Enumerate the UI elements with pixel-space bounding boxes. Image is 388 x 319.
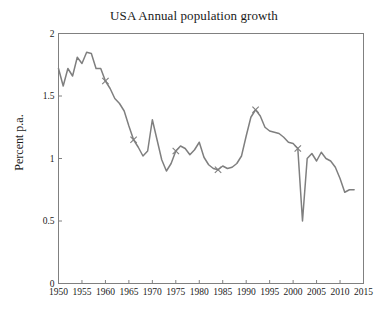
x-tick-label: 1975	[166, 287, 185, 297]
x-tick-label: 1970	[143, 287, 162, 297]
line-chart-plot: 00.511.52 195019551960196519701975198019…	[0, 0, 388, 319]
x-tick-label: 1965	[119, 287, 138, 297]
chart-screenshot: USA Annual population growth Percent p.a…	[0, 0, 388, 319]
x-tick-label: 2000	[284, 287, 303, 297]
x-tick-label: 1990	[237, 287, 256, 297]
y-tick-label: 1.5	[43, 91, 55, 101]
x-tick-label: 1985	[213, 287, 232, 297]
x-tick-label: 1995	[260, 287, 279, 297]
y-tick-label: 0.5	[43, 216, 55, 226]
x-tick-label: 2005	[307, 287, 326, 297]
y-tick-label: 1	[50, 154, 55, 164]
x-tick-label: 2010	[331, 287, 350, 297]
x-tick-label: 1950	[49, 287, 68, 297]
x-tick-label: 2015	[354, 287, 373, 297]
x-tick-label: 1960	[96, 287, 115, 297]
x-tick-label: 1980	[190, 287, 209, 297]
y-tick-label: 2	[50, 29, 55, 39]
x-tick-label: 1955	[72, 287, 91, 297]
